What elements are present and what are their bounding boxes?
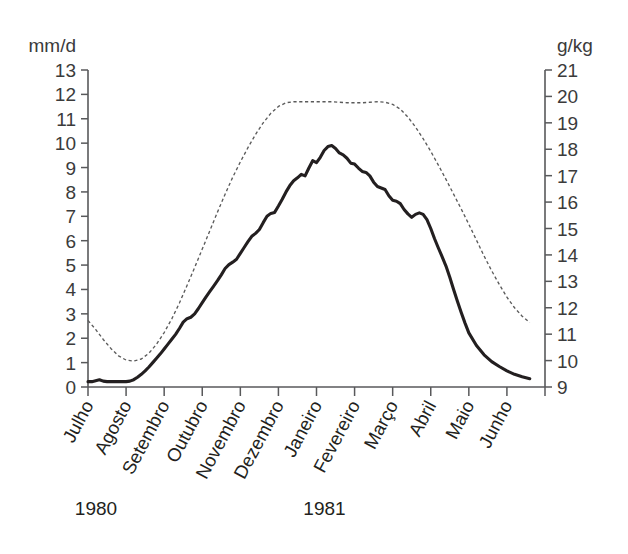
- year-label-1980: 1980: [75, 498, 117, 519]
- left-axis-tick-label: 4: [65, 279, 76, 300]
- left-axis-tick-label: 12: [55, 84, 76, 105]
- left-axis-tick-label: 6: [65, 231, 76, 252]
- right-axis: 9101112131415161718192021g/kg: [545, 35, 593, 398]
- x-axis-month-label-10: Abril: [404, 397, 440, 440]
- right-axis-tick-label: 12: [557, 298, 578, 319]
- left-axis-tick-label: 13: [55, 60, 76, 81]
- left-axis-tick-label: 8: [65, 182, 76, 203]
- right-axis-tick-label: 17: [557, 166, 578, 187]
- right-axis-tick-label: 16: [557, 192, 578, 213]
- right-axis-tick-label: 9: [557, 377, 568, 398]
- left-axis: 012345678910111213mm/d: [29, 35, 89, 398]
- x-axis-month-label-12: Junho: [474, 397, 516, 451]
- x-axis-month-label-11: Maio: [441, 397, 478, 442]
- left-axis-tick-label: 5: [65, 255, 76, 276]
- line-chart: 012345678910111213mm/d 91011121314151617…: [0, 0, 628, 554]
- label-layer: 19801981: [75, 498, 346, 519]
- right-axis-unit-label: g/kg: [557, 35, 593, 56]
- right-axis-tick-label: 21: [557, 60, 578, 81]
- right-axis-tick-label: 11: [557, 324, 577, 345]
- left-axis-tick-label: 7: [65, 206, 76, 227]
- x-axis-month-label-9: Março: [360, 397, 403, 452]
- series-layer: [88, 102, 530, 382]
- right-axis-tick-label: 10: [557, 351, 578, 372]
- right-axis-tick-label: 19: [557, 113, 578, 134]
- year-label-1981: 1981: [303, 498, 345, 519]
- x-axis: JulhoAgostoSetembroOutubroNovembroDezemb…: [58, 387, 545, 482]
- left-axis-unit-label: mm/d: [29, 35, 77, 56]
- left-axis-tick-label: 1: [65, 353, 76, 374]
- right-axis-tick-label: 18: [557, 139, 578, 160]
- right-axis-tick-label: 20: [557, 86, 578, 107]
- left-axis-tick-label: 3: [65, 304, 76, 325]
- left-axis-tick-label: 9: [65, 158, 76, 179]
- chart-container: 012345678910111213mm/d 91011121314151617…: [0, 0, 628, 554]
- left-axis-tick-label: 10: [55, 133, 76, 154]
- left-axis-tick-label: 2: [65, 328, 76, 349]
- right-axis-tick-label: 14: [557, 245, 579, 266]
- left-axis-tick-label: 11: [56, 109, 76, 130]
- x-axis-month-label-1: Julho: [58, 397, 97, 446]
- left-axis-tick-label: 0: [65, 377, 76, 398]
- right-axis-tick-label: 15: [557, 219, 578, 240]
- right-axis-tick-label: 13: [557, 271, 578, 292]
